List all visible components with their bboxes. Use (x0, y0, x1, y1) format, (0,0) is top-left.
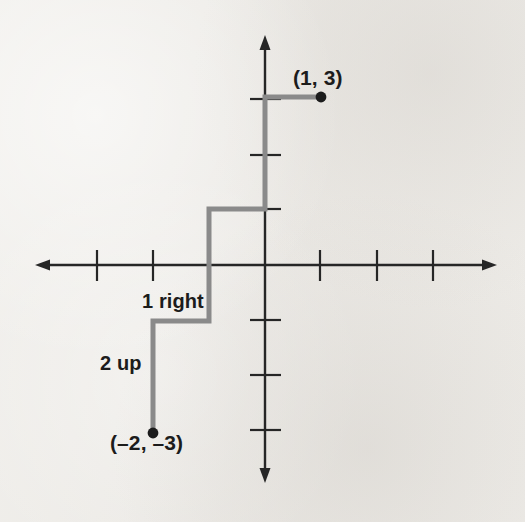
move-right-annotation: 1 right (142, 291, 204, 311)
y-axis-up-arrow-icon (260, 35, 271, 50)
y-axis-down-arrow-icon (260, 468, 271, 483)
coordinate-plane-figure: (1, 3) (–2, –3) 1 right 2 up (0, 0, 525, 522)
point-a-label: (1, 3) (293, 67, 343, 88)
point-b-label: (–2, –3) (110, 432, 183, 453)
coordinate-plane-svg (0, 0, 525, 522)
point-marker-a (316, 92, 327, 103)
x-axis-right-arrow-icon (482, 260, 497, 271)
x-axis-left-arrow-icon (35, 260, 50, 271)
move-up-annotation: 2 up (100, 353, 142, 373)
